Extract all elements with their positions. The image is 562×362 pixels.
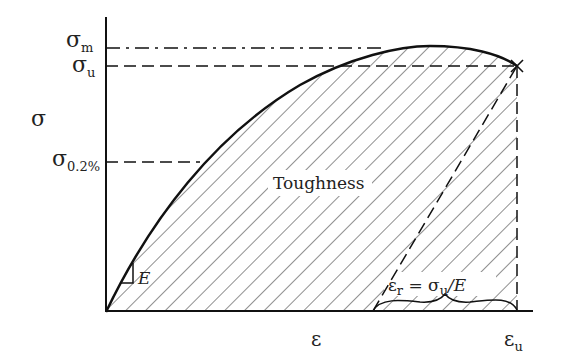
toughness-label: Toughness (273, 173, 365, 193)
sigma-u-label: σu (72, 52, 95, 80)
slope-label: E (137, 268, 151, 288)
epsilon-u-label: εu (504, 327, 523, 354)
sigma-02-label: σ0.2% (52, 146, 100, 174)
y-axis-label: σ (31, 106, 46, 131)
x-axis-label: ε (311, 327, 321, 351)
stress-strain-diagram: σm σu σ σ0.2% Toughness E εr = σu/E ε εu (0, 0, 562, 362)
sigma-m-label: σm (66, 27, 93, 55)
